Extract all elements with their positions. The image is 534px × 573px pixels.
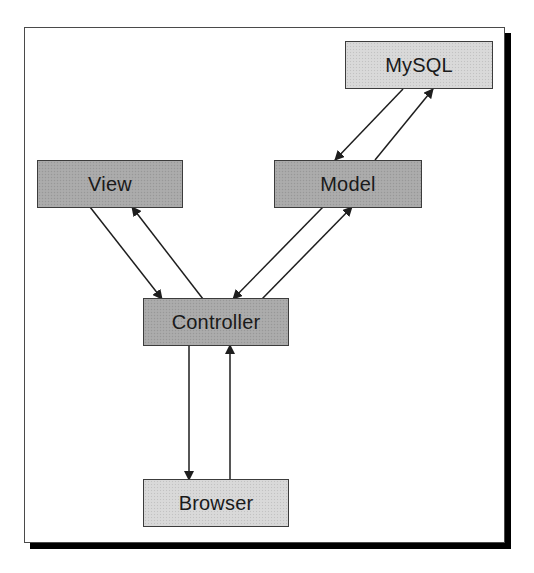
node-mysql: MySQL	[345, 41, 493, 89]
node-view: View	[37, 160, 183, 208]
node-controller: Controller	[143, 298, 289, 346]
node-mysql-label: MySQL	[385, 54, 453, 77]
node-browser: Browser	[143, 479, 289, 527]
node-model-label: Model	[320, 173, 375, 196]
node-model: Model	[274, 160, 422, 208]
node-controller-label: Controller	[172, 311, 261, 334]
node-browser-label: Browser	[179, 492, 254, 515]
diagram-frame	[24, 27, 505, 543]
node-view-label: View	[88, 173, 132, 196]
